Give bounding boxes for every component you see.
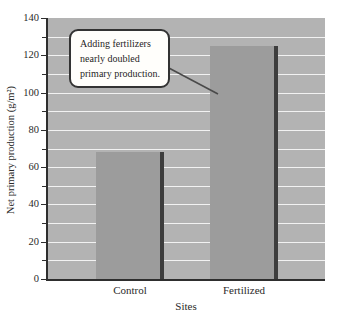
y-minor-tick-90: [42, 111, 46, 112]
x-category-label-control: Control: [90, 284, 170, 297]
gridline-50: [48, 186, 325, 187]
y-tick-label-20: 20: [9, 236, 39, 248]
y-tick-label-0: 0: [9, 273, 39, 285]
y-major-tick-20: [41, 242, 46, 243]
gridline-10: [48, 260, 325, 261]
y-major-tick-80: [41, 130, 46, 131]
y-tick-label-40: 40: [9, 198, 39, 210]
gridline-30: [48, 223, 325, 224]
gridline-40: [48, 204, 325, 205]
y-major-tick-0: [41, 279, 46, 280]
gridline-70: [48, 149, 325, 150]
bar-control: [96, 152, 164, 279]
y-tick-label-140: 140: [9, 12, 39, 24]
y-tick-label-100: 100: [9, 87, 39, 99]
y-tick-label-80: 80: [9, 124, 39, 136]
y-tick-label-60: 60: [9, 161, 39, 173]
y-minor-tick-30: [42, 223, 46, 224]
bar-chart-figure: Net primary production (g/m²) 0204060801…: [0, 0, 338, 320]
y-major-tick-120: [41, 55, 46, 56]
x-category-label-fertilized: Fertilized: [204, 284, 284, 297]
bar-fertilized: [210, 46, 278, 279]
gridline-100: [48, 93, 325, 94]
y-minor-tick-50: [42, 186, 46, 187]
annotation-callout: Adding fertilizers nearly doubled primar…: [69, 29, 170, 88]
y-major-tick-140: [41, 18, 46, 19]
gridline-20: [48, 242, 325, 243]
y-major-tick-60: [41, 167, 46, 168]
x-axis-title: Sites: [146, 300, 226, 312]
gridline-60: [48, 167, 325, 168]
y-minor-tick-70: [42, 149, 46, 150]
y-major-tick-100: [41, 93, 46, 94]
y-minor-tick-10: [42, 260, 46, 261]
y-minor-tick-130: [42, 37, 46, 38]
gridline-80: [48, 130, 325, 131]
gridline-90: [48, 111, 325, 112]
y-minor-tick-110: [42, 74, 46, 75]
y-major-tick-40: [41, 204, 46, 205]
y-tick-label-120: 120: [9, 49, 39, 61]
